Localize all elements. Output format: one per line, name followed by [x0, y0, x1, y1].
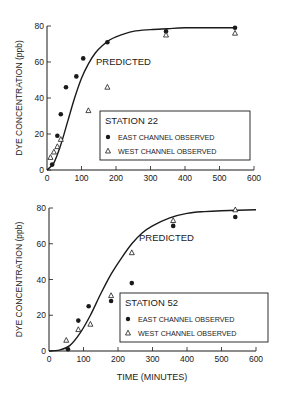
chart-panel-1: 0100200300400500600020406080DYE CONCENTR…	[14, 21, 261, 183]
east-channel-point	[74, 74, 79, 79]
legend-title: STATION 22	[105, 115, 158, 126]
y-tick-label: 20	[35, 129, 45, 139]
west-channel-point	[109, 293, 114, 298]
west-channel-point	[233, 30, 238, 35]
west-channel-point	[88, 321, 93, 326]
x-tick-label: 600	[247, 173, 261, 183]
legend-west-label: WEST CHANNEL OBSERVED	[118, 147, 217, 156]
legend-east-marker-icon	[126, 317, 130, 321]
east-channel-point	[64, 85, 69, 90]
west-channel-point	[48, 155, 53, 160]
west-channel-point	[76, 327, 81, 332]
east-channel-point	[59, 112, 64, 117]
legend: STATION 52EAST CHANNEL OBSERVEDWEST CHAN…	[120, 293, 268, 342]
legend-east-label: EAST CHANNEL OBSERVED	[138, 315, 235, 324]
east-channel-point	[81, 56, 86, 61]
x-tick-label: 100	[76, 354, 90, 364]
figure: 0100200300400500600020406080DYE CONCENTR…	[0, 0, 283, 397]
east-channel-point	[130, 281, 135, 286]
x-tick-label: 300	[143, 173, 157, 183]
west-channel-point	[51, 149, 56, 154]
x-tick-label: 400	[178, 173, 192, 183]
y-tick-label: 40	[37, 275, 47, 285]
y-tick-label: 0	[39, 165, 44, 175]
x-tick-label: 0	[45, 173, 50, 183]
y-tick-label: 20	[37, 310, 47, 320]
legend-west-label: WEST CHANNEL OBSERVED	[138, 329, 237, 338]
west-channel-point	[171, 218, 176, 223]
predicted-annotation: PREDICTED	[96, 56, 151, 67]
legend: STATION 22EAST CHANNEL OBSERVEDWEST CHAN…	[100, 111, 250, 160]
y-tick-label: 60	[37, 239, 47, 249]
y-tick-label: 80	[35, 21, 45, 31]
y-axis-label: DYE CONCENTRATION (ppb)	[14, 222, 24, 338]
west-channel-point	[64, 337, 69, 342]
west-channel-point	[105, 84, 110, 89]
east-channel-point	[76, 318, 81, 323]
legend-east-marker-icon	[106, 135, 110, 139]
east-channel-point	[233, 215, 238, 220]
x-tick-label: 500	[214, 354, 228, 364]
east-channel-point	[109, 299, 114, 304]
x-tick-label: 100	[74, 173, 88, 183]
y-tick-label: 40	[35, 93, 45, 103]
east-channel-point	[50, 162, 55, 167]
x-tick-label: 200	[111, 354, 125, 364]
predicted-annotation: PREDICTED	[139, 232, 194, 243]
y-tick-label: 80	[37, 203, 47, 213]
east-channel-point	[105, 40, 110, 45]
x-tick-label: 300	[145, 354, 159, 364]
y-tick-label: 60	[35, 57, 45, 67]
x-tick-label: 500	[212, 173, 226, 183]
x-axis-label: TIME (MINUTES)	[117, 372, 188, 382]
legend-east-label: EAST CHANNEL OBSERVED	[118, 133, 215, 142]
west-channel-point	[86, 108, 91, 113]
east-channel-point	[233, 26, 238, 31]
x-tick-label: 0	[47, 354, 52, 364]
x-tick-label: 600	[249, 354, 263, 364]
y-axis-label: DYE CONCENTRATION (ppb)	[14, 40, 24, 156]
east-channel-point	[171, 224, 176, 229]
west-channel-point	[164, 32, 169, 37]
west-channel-point	[129, 250, 134, 255]
y-tick-label: 0	[41, 346, 46, 356]
west-channel-point	[55, 144, 60, 149]
west-channel-point	[233, 207, 238, 212]
chart-panel-2: 0100200300400500600020406080DYE CONCENTR…	[14, 203, 268, 382]
x-tick-label: 200	[109, 173, 123, 183]
legend-title: STATION 52	[125, 297, 178, 308]
east-channel-point	[66, 347, 71, 352]
x-tick-label: 400	[180, 354, 194, 364]
east-channel-point	[55, 134, 60, 139]
east-channel-point	[86, 304, 91, 309]
